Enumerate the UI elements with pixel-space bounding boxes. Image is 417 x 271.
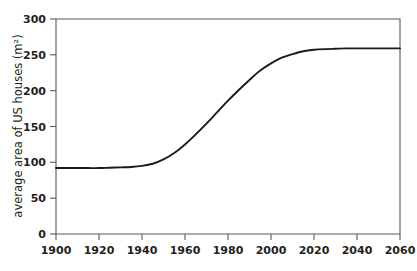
x-tick-label-1980: 1980 bbox=[213, 244, 244, 257]
plot-frame-box bbox=[56, 19, 400, 234]
y-tick-label-300: 300 bbox=[23, 13, 46, 26]
chart-container: 300 250 200 150 100 50 0 1900 1920 1940 … bbox=[0, 0, 417, 271]
x-tick-label-2020: 2020 bbox=[299, 244, 330, 257]
x-tick-label-2060: 2060 bbox=[385, 244, 416, 257]
y-tick-label-0: 0 bbox=[38, 228, 46, 241]
x-tick-label-2000: 2000 bbox=[256, 244, 287, 257]
x-axis-tick-labels: 1900 1920 1940 1960 1980 2000 2020 2040 … bbox=[41, 244, 416, 257]
y-tick-label-150: 150 bbox=[23, 121, 46, 134]
y-axis-ticks bbox=[50, 19, 56, 234]
y-axis-tick-labels: 300 250 200 150 100 50 0 bbox=[23, 13, 46, 241]
x-tick-label-2040: 2040 bbox=[342, 244, 373, 257]
y-tick-label-50: 50 bbox=[31, 192, 47, 205]
y-axis-title: average area of US houses (m²) bbox=[11, 34, 25, 217]
line-chart: 300 250 200 150 100 50 0 1900 1920 1940 … bbox=[0, 0, 417, 271]
x-tick-label-1920: 1920 bbox=[84, 244, 115, 257]
x-tick-label-1940: 1940 bbox=[127, 244, 158, 257]
x-tick-label-1960: 1960 bbox=[170, 244, 201, 257]
x-axis-ticks bbox=[56, 234, 400, 240]
y-tick-label-100: 100 bbox=[23, 156, 46, 169]
plot-frame bbox=[56, 19, 400, 234]
y-tick-label-200: 200 bbox=[23, 85, 46, 98]
data-series-line bbox=[56, 48, 400, 168]
x-tick-label-1900: 1900 bbox=[41, 244, 72, 257]
y-tick-label-250: 250 bbox=[23, 49, 46, 62]
